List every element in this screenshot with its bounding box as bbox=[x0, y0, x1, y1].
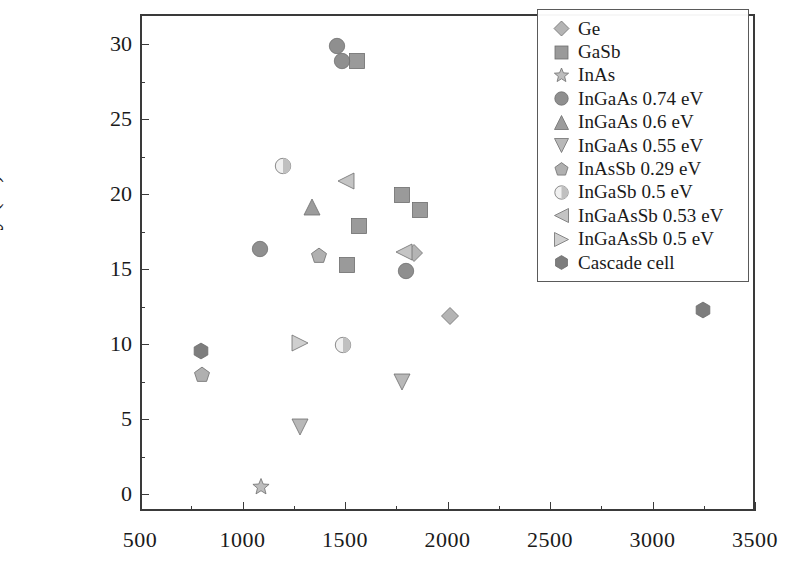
data-point-gasb bbox=[411, 201, 428, 218]
legend-item-inassb-0-29-ev[interactable]: InAsSb 0.29 eV bbox=[544, 157, 742, 180]
data-point-gasb bbox=[339, 257, 356, 274]
scatter-chart-figure: 500100015002000250030003500 051015202530… bbox=[0, 0, 788, 577]
x-tick-2500 bbox=[550, 502, 551, 511]
chart-legend: GeGaSbInAsInGaAs 0.74 eVInGaAs 0.6 eVInG… bbox=[537, 9, 749, 282]
legend-item-label: InGaAs 0.55 eV bbox=[578, 135, 703, 157]
x-tick-1250 bbox=[294, 506, 295, 511]
legend-item-ingaas-0-6-ev[interactable]: InGaAs 0.6 eV bbox=[544, 111, 742, 134]
legend-item-label: InGaAsSb 0.53 eV bbox=[578, 205, 724, 227]
data-point-ingaas-0-74-ev bbox=[333, 53, 350, 70]
data-point-ingaas-0-74-ev bbox=[251, 240, 268, 257]
x-tick-1000 bbox=[243, 502, 244, 511]
data-point-ingaassb-0-53-ev bbox=[396, 243, 413, 260]
y-tick-5 bbox=[140, 419, 149, 420]
triangle-down-marker-icon bbox=[544, 138, 578, 153]
x-tick-500 bbox=[140, 502, 141, 511]
data-point-ingaas-0-6-ev bbox=[304, 198, 321, 215]
legend-item-label: InAs bbox=[578, 64, 615, 86]
y-tick-25 bbox=[140, 119, 149, 120]
y-tick-30 bbox=[140, 44, 149, 45]
x-tick-label-1000: 1000 bbox=[220, 527, 266, 553]
diamond-marker-icon bbox=[544, 21, 578, 36]
legend-item-ingaas-0-74-ev[interactable]: InGaAs 0.74 eV bbox=[544, 87, 742, 110]
data-point-inas bbox=[252, 479, 269, 496]
x-tick-label-3000: 3000 bbox=[630, 527, 676, 553]
y-tick-22.5 bbox=[140, 157, 145, 158]
data-point-ingaas-0-55-ev bbox=[394, 374, 411, 391]
legend-item-ingaassb-0-53-ev[interactable]: InGaAsSb 0.53 eV bbox=[544, 204, 742, 227]
y-axis-title: Efficiency (%) bbox=[0, 174, 4, 321]
x-tick-2250 bbox=[499, 506, 500, 511]
data-point-ingasb-0-5-ev bbox=[275, 158, 292, 175]
y-tick-20 bbox=[140, 194, 149, 195]
x-tick-1500 bbox=[345, 502, 346, 511]
legend-item-ingasb-0-5-ev[interactable]: InGaSb 0.5 eV bbox=[544, 181, 742, 204]
circle-marker-icon bbox=[544, 91, 578, 106]
y-tick-17.5 bbox=[140, 232, 145, 233]
legend-item-cascade-cell[interactable]: Cascade cell bbox=[544, 251, 742, 274]
legend-item-ingaassb-0-5-ev[interactable]: InGaAsSb 0.5 eV bbox=[544, 228, 742, 251]
y-tick-15 bbox=[140, 269, 149, 270]
square-marker-icon bbox=[544, 45, 578, 60]
legend-item-label: InGaSb 0.5 eV bbox=[578, 181, 693, 203]
y-tick-label-10: 10 bbox=[88, 331, 132, 357]
data-point-ingasb-0-5-ev bbox=[334, 336, 351, 353]
y-tick-label-30: 30 bbox=[88, 31, 132, 57]
data-point-gasb bbox=[349, 53, 366, 70]
y-tick-label-0: 0 bbox=[88, 481, 132, 507]
half-circle-marker-icon bbox=[544, 185, 578, 200]
legend-item-ingaas-0-55-ev[interactable]: InGaAs 0.55 eV bbox=[544, 134, 742, 157]
hexagon-marker-icon bbox=[544, 255, 578, 270]
y-tick-2.5 bbox=[140, 457, 145, 458]
star-marker-icon bbox=[544, 68, 578, 83]
data-point-ingaassb-0-53-ev bbox=[337, 173, 354, 190]
legend-item-label: InGaAsSb 0.5 eV bbox=[578, 228, 714, 250]
y-tick-27.5 bbox=[140, 82, 145, 83]
data-point-ingaas-0-74-ev bbox=[398, 263, 415, 280]
x-tick-3000 bbox=[653, 502, 654, 511]
y-tick-label-5: 5 bbox=[88, 406, 132, 432]
x-tick-3250 bbox=[704, 506, 705, 511]
x-tick-label-3500: 3500 bbox=[732, 527, 778, 553]
legend-item-ge[interactable]: Ge bbox=[544, 17, 742, 40]
data-point-ingaassb-0-5-ev bbox=[291, 335, 308, 352]
y-tick-label-25: 25 bbox=[88, 106, 132, 132]
y-tick-12.5 bbox=[140, 307, 145, 308]
triangle-left-marker-icon bbox=[544, 208, 578, 223]
x-tick-label-1500: 1500 bbox=[322, 527, 368, 553]
data-point-ingaas-0-55-ev bbox=[291, 419, 308, 436]
x-tick-2750 bbox=[601, 506, 602, 511]
data-point-cascade-cell bbox=[694, 302, 711, 319]
data-point-gasb bbox=[394, 186, 411, 203]
y-tick-label-20: 20 bbox=[88, 181, 132, 207]
legend-item-label: Ge bbox=[578, 18, 600, 40]
y-tick-0 bbox=[140, 494, 149, 495]
pentagon-marker-icon bbox=[544, 162, 578, 177]
x-tick-1750 bbox=[396, 506, 397, 511]
legend-item-label: InGaAs 0.74 eV bbox=[578, 88, 703, 110]
triangle-right-marker-icon bbox=[544, 232, 578, 247]
x-tick-label-500: 500 bbox=[123, 527, 158, 553]
data-point-inassb-0-29-ev bbox=[194, 366, 211, 383]
legend-item-label: Cascade cell bbox=[578, 252, 675, 274]
x-tick-label-2500: 2500 bbox=[527, 527, 573, 553]
x-tick-750 bbox=[191, 506, 192, 511]
data-point-gasb bbox=[351, 218, 368, 235]
data-point-inassb-0-29-ev bbox=[311, 248, 328, 265]
y-tick-10 bbox=[140, 344, 149, 345]
x-tick-label-2000: 2000 bbox=[425, 527, 471, 553]
legend-item-label: InGaAs 0.6 eV bbox=[578, 111, 694, 133]
legend-item-label: InAsSb 0.29 eV bbox=[578, 158, 701, 180]
x-tick-2000 bbox=[448, 502, 449, 511]
data-point-cascade-cell bbox=[193, 342, 210, 359]
triangle-up-marker-icon bbox=[544, 115, 578, 130]
legend-item-label: GaSb bbox=[578, 41, 621, 63]
data-point-ge bbox=[441, 308, 458, 325]
x-tick-3500 bbox=[755, 502, 756, 511]
legend-item-inas[interactable]: InAs bbox=[544, 64, 742, 87]
legend-item-gasb[interactable]: GaSb bbox=[544, 40, 742, 63]
y-tick-label-15: 15 bbox=[88, 256, 132, 282]
y-tick-7.5 bbox=[140, 382, 145, 383]
